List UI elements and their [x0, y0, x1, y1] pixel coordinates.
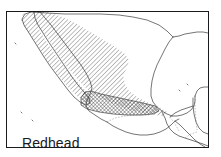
map-frame: Redhead [6, 11, 209, 148]
range-map-figure: Redhead [0, 0, 221, 157]
map-graphic [7, 12, 208, 147]
species-label: Redhead [22, 135, 80, 148]
